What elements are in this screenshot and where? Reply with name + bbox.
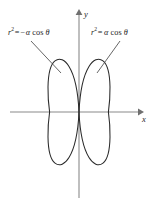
x-axis-label: x bbox=[142, 115, 146, 124]
y-axis-label: y bbox=[84, 10, 88, 19]
equation-left-coefficient: α bbox=[26, 28, 30, 37]
equation-right-coefficient: α bbox=[104, 28, 108, 37]
equation-label-left: r2=−α cos θ bbox=[8, 29, 50, 37]
leader-line-left bbox=[31, 41, 61, 73]
equation-left-function: cos bbox=[32, 28, 43, 37]
equation-label-right: r2=α cos θ bbox=[91, 29, 128, 37]
leader-line-right bbox=[97, 41, 120, 73]
equation-right-angle: θ bbox=[124, 28, 128, 37]
equation-left-angle: θ bbox=[46, 28, 50, 37]
polar-plot-figure: r2=−α cos θ r2=α cos θ y x bbox=[0, 0, 156, 208]
y-axis-arrowhead-icon bbox=[76, 9, 83, 15]
equation-right-function: cos bbox=[110, 28, 121, 37]
